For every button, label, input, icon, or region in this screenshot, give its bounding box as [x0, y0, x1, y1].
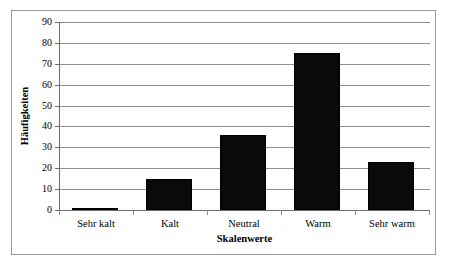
xtick-mark-1 — [133, 210, 134, 215]
bar-kalt[interactable] — [146, 179, 192, 210]
xtick-mark-0 — [59, 210, 60, 215]
ytick-label-10: 10 — [42, 184, 52, 194]
ytick-label-30: 30 — [42, 142, 52, 152]
xcat-label-kalt: Kalt — [133, 219, 207, 230]
bar-chart-figure: 90 80 70 60 50 40 30 20 10 0 — [0, 0, 449, 267]
ytick-label-50: 50 — [42, 101, 52, 111]
bar-sehr-warm[interactable] — [368, 162, 414, 210]
ytick-label-90: 90 — [42, 17, 52, 27]
y-axis-title: Häufigkeiten — [19, 87, 30, 145]
xcat-label-neutral: Neutral — [207, 219, 281, 230]
ytick-label-60: 60 — [42, 80, 52, 90]
ytick-label-0: 0 — [47, 205, 52, 215]
xtick-mark-4 — [355, 210, 356, 215]
bars-layer — [59, 22, 430, 210]
ytick-label-40: 40 — [42, 121, 52, 131]
xtick-mark-2 — [207, 210, 208, 215]
bar-warm[interactable] — [294, 53, 340, 210]
xcat-label-sehr-kalt: Sehr kalt — [59, 219, 133, 230]
x-axis-title: Skalenwerte — [59, 234, 430, 245]
ytick-label-80: 80 — [42, 38, 52, 48]
bar-neutral[interactable] — [220, 135, 266, 210]
xcat-label-warm: Warm — [281, 219, 355, 230]
xtick-mark-3 — [281, 210, 282, 215]
x-axis-line — [59, 210, 430, 211]
ytick-label-70: 70 — [42, 59, 52, 69]
xtick-mark-5 — [429, 210, 430, 215]
ytick-label-20: 20 — [42, 163, 52, 173]
xcat-label-sehr-warm: Sehr warm — [355, 219, 429, 230]
